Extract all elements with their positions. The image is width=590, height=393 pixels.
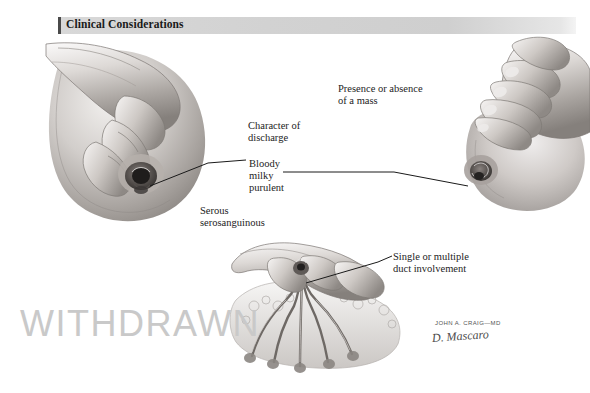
figure-left — [46, 43, 205, 221]
page-title: Clinical Considerations — [66, 18, 184, 30]
annotation-presence-of-mass: Presence or absence of a mass — [338, 83, 423, 107]
annotation-duct-involvement: Single or multiple duct involvement — [393, 251, 469, 275]
annotation-character-of-discharge: Character of discharge — [248, 120, 300, 144]
withdrawn-watermark: WITHDRAWN — [20, 303, 260, 345]
leader-milky-to-right-nipple — [283, 172, 468, 186]
annotation-discharge-types: Bloody milky purulent — [249, 158, 284, 193]
artist-credit: JOHN A. CRAIG—MD — [435, 320, 501, 326]
annotation-serous-types: Serous serosanguinous — [200, 205, 265, 229]
figure-right — [464, 37, 590, 211]
illustration-page: Clinical Considerations Presence or abse… — [0, 0, 590, 393]
